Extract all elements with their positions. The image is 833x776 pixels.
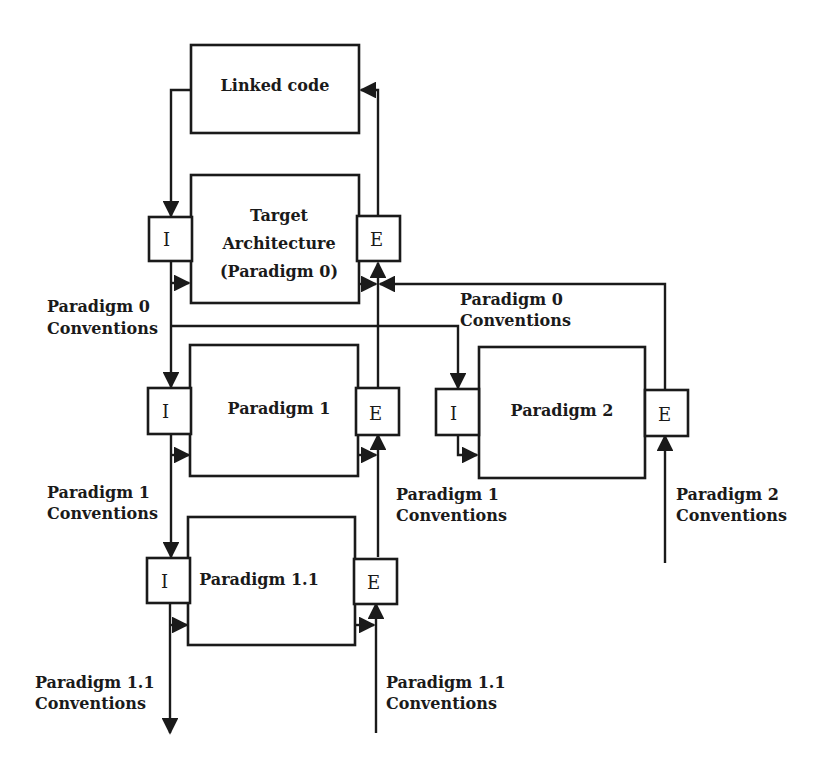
svg-text:Paradigm 2: Paradigm 2: [676, 485, 779, 504]
port-p1-import: I: [148, 388, 191, 434]
svg-text:Conventions: Conventions: [676, 506, 787, 525]
target-arch-line1: Target: [250, 206, 309, 225]
port-import-label: I: [162, 401, 169, 422]
svg-text:Paradigm 0: Paradigm 0: [47, 297, 150, 316]
port-export-label: E: [369, 403, 382, 424]
label-p0-conventions-right: Paradigm 0 Conventions: [460, 290, 571, 330]
port-p2-export: E: [645, 390, 688, 436]
label-p1-conventions-right: Paradigm 1 Conventions: [396, 485, 507, 525]
node-target-architecture: Target Architecture (Paradigm 0): [191, 175, 359, 303]
paradigm-1-1-label: Paradigm 1.1: [199, 570, 319, 589]
svg-text:Conventions: Conventions: [47, 319, 158, 338]
paradigm-1-label: Paradigm 1: [228, 399, 331, 418]
svg-text:Paradigm 1.1: Paradigm 1.1: [35, 673, 155, 692]
label-p11-conventions-right: Paradigm 1.1 Conventions: [386, 673, 506, 713]
label-p1-conventions-left: Paradigm 1 Conventions: [47, 483, 158, 523]
port-target-import: I: [149, 217, 192, 261]
port-export-label: E: [367, 572, 380, 593]
svg-text:Conventions: Conventions: [386, 694, 497, 713]
svg-text:Conventions: Conventions: [396, 506, 507, 525]
svg-text:Paradigm 0: Paradigm 0: [460, 290, 563, 309]
svg-text:Conventions: Conventions: [47, 504, 158, 523]
linked-code-label: Linked code: [221, 76, 330, 95]
label-p2-conventions: Paradigm 2 Conventions: [676, 485, 787, 525]
paradigm-2-label: Paradigm 2: [511, 401, 614, 420]
port-import-label: I: [161, 571, 168, 592]
port-export-label: E: [658, 404, 671, 425]
port-import-label: I: [163, 229, 170, 250]
label-p0-conventions-left: Paradigm 0 Conventions: [47, 297, 158, 338]
wire-target-export-to-linked: [361, 90, 378, 216]
target-arch-line3: (Paradigm 0): [220, 262, 338, 281]
port-p11-export: E: [354, 559, 397, 604]
wire-p2-import-arrow: [458, 435, 477, 455]
label-p11-conventions-left: Paradigm 1.1 Conventions: [35, 673, 155, 713]
node-paradigm-1-1: Paradigm 1.1: [188, 517, 355, 645]
port-p11-import: I: [147, 558, 190, 603]
svg-text:Paradigm 1: Paradigm 1: [396, 485, 499, 504]
node-paradigm-2: Paradigm 2: [479, 347, 645, 478]
svg-text:Paradigm 1.1: Paradigm 1.1: [386, 673, 506, 692]
port-export-label: E: [370, 229, 383, 250]
port-p1-export: E: [356, 388, 399, 435]
port-target-export: E: [357, 216, 400, 261]
port-import-label: I: [450, 403, 457, 424]
svg-text:Conventions: Conventions: [460, 311, 571, 330]
node-linked-code: Linked code: [191, 45, 359, 133]
wire-linked-to-target-import: [171, 90, 190, 216]
paradigm-diagram: Linked code Target Architecture (Paradig…: [0, 0, 833, 776]
svg-text:Paradigm 1: Paradigm 1: [47, 483, 150, 502]
target-arch-line2: Architecture: [221, 234, 335, 253]
node-paradigm-1: Paradigm 1: [190, 345, 358, 476]
svg-text:Conventions: Conventions: [35, 694, 146, 713]
port-p2-import: I: [436, 389, 479, 435]
